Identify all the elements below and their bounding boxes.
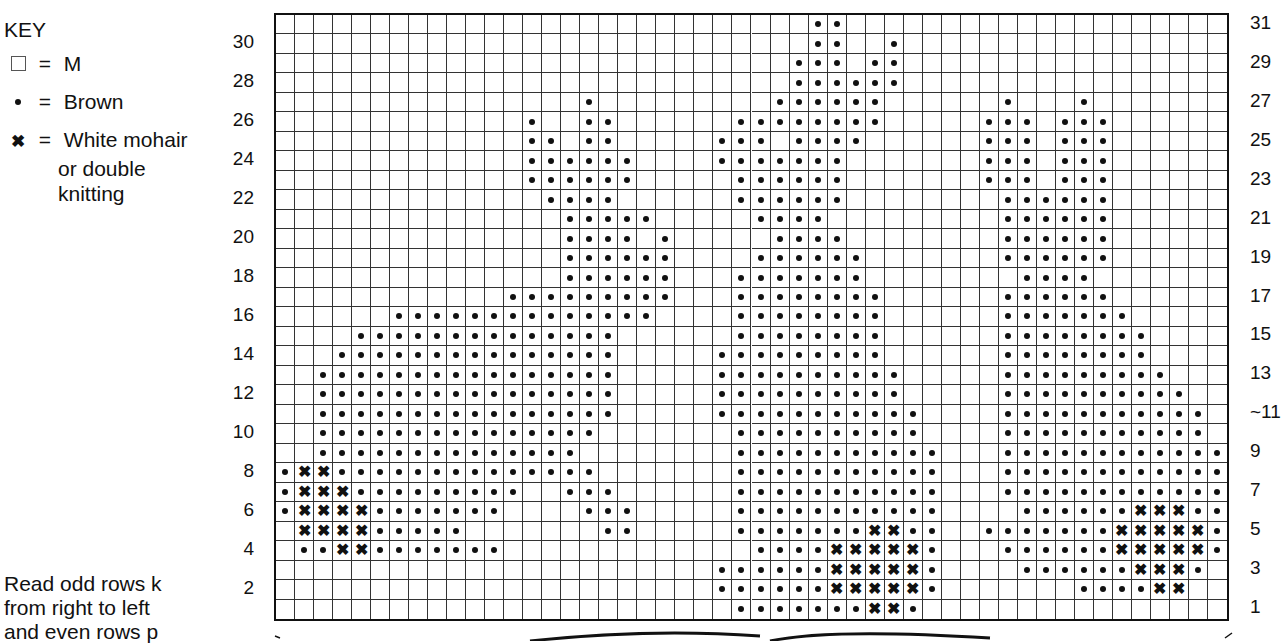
chart-cell-brown <box>732 424 751 443</box>
chart-cell-m <box>694 385 713 404</box>
chart-cell-brown <box>618 288 637 307</box>
chart-cell-m <box>523 561 542 580</box>
chart-cell-m <box>713 112 732 131</box>
chart-cell-m <box>333 327 352 346</box>
chart-cell-m <box>333 307 352 326</box>
chart-cell-white: ✖ <box>352 502 371 521</box>
chart-cell-brown <box>1018 483 1037 502</box>
chart-cell-m <box>885 151 904 170</box>
chart-cell-brown <box>1018 463 1037 482</box>
chart-cell-m <box>314 93 333 112</box>
chart-cell-m <box>1056 34 1075 53</box>
chart-cell-brown <box>732 132 751 151</box>
chart-cell-m <box>561 93 580 112</box>
chart-cell-m <box>942 366 961 385</box>
chart-cell-brown <box>809 600 828 619</box>
chart-cell-m <box>1094 73 1113 92</box>
chart-cell-m <box>713 483 732 502</box>
chart-cell-brown <box>1018 366 1037 385</box>
chart-cell-brown <box>999 210 1018 229</box>
chart-cell-m <box>618 93 637 112</box>
chart-cell-brown <box>828 483 847 502</box>
chart-cell-m <box>333 561 352 580</box>
chart-cell-m <box>276 151 295 170</box>
chart-cell-m <box>523 502 542 521</box>
chart-cell-m <box>713 463 732 482</box>
chart-cell-brown <box>1018 171 1037 190</box>
chart-cell-m <box>656 405 675 424</box>
chart-cell-m <box>961 34 980 53</box>
chart-cell-m <box>1113 268 1132 287</box>
chart-cell-brown <box>828 502 847 521</box>
chart-cell-brown <box>466 405 485 424</box>
chart-cell-brown <box>885 463 904 482</box>
row-label: 17 <box>1250 285 1284 307</box>
chart-cell-m <box>694 73 713 92</box>
chart-cell-brown <box>732 561 751 580</box>
chart-cell-brown <box>809 73 828 92</box>
chart-cell-m <box>276 54 295 73</box>
chart-cell-m <box>866 15 885 34</box>
chart-cell-brown <box>1018 190 1037 209</box>
chart-cell-m <box>656 151 675 170</box>
chart-cell-m <box>542 93 561 112</box>
chart-cell-m <box>980 307 999 326</box>
chart-cell-brown <box>428 346 447 365</box>
chart-cell-white: ✖ <box>828 561 847 580</box>
chart-cell-m <box>523 249 542 268</box>
chart-cell-brown <box>523 366 542 385</box>
chart-cell-brown <box>999 405 1018 424</box>
chart-cell-brown <box>1056 522 1075 541</box>
chart-cell-m <box>276 580 295 599</box>
chart-cell-m <box>904 307 923 326</box>
chart-cell-brown <box>732 151 751 170</box>
chart-cell-m <box>295 171 314 190</box>
chart-cell-brown <box>809 502 828 521</box>
chart-cell-brown <box>790 444 809 463</box>
chart-cell-brown <box>1094 210 1113 229</box>
chart-cell-brown <box>580 190 599 209</box>
chart-cell-m <box>694 132 713 151</box>
chart-cell-brown <box>847 346 866 365</box>
chart-cell-brown <box>847 483 866 502</box>
chart-cell-white: ✖ <box>1151 561 1170 580</box>
chart-cell-brown <box>352 385 371 404</box>
chart-cell-brown <box>580 405 599 424</box>
chart-cell-m <box>428 171 447 190</box>
chart-cell-brown <box>847 502 866 521</box>
chart-cell-m <box>1189 93 1208 112</box>
chart-cell-m <box>904 210 923 229</box>
chart-cell-brown <box>1075 444 1094 463</box>
chart-cell-m <box>980 346 999 365</box>
chart-cell-m <box>1151 229 1170 248</box>
chart-cell-m <box>637 424 656 443</box>
chart-cell-m <box>675 15 694 34</box>
chart-cell-brown <box>790 366 809 385</box>
chart-cell-brown <box>599 249 618 268</box>
chart-cell-brown <box>352 366 371 385</box>
chart-cell-brown <box>504 385 523 404</box>
chart-cell-m <box>599 54 618 73</box>
chart-cell-brown <box>1094 424 1113 443</box>
chart-cell-brown <box>1208 522 1227 541</box>
row-label: 23 <box>1250 168 1284 190</box>
chart-cell-m <box>1037 54 1056 73</box>
chart-cell-m <box>656 132 675 151</box>
chart-cell-m <box>1170 132 1189 151</box>
chart-cell-m <box>980 93 999 112</box>
chart-cell-m <box>904 268 923 287</box>
chart-cell-brown <box>466 541 485 560</box>
chart-cell-brown <box>1056 171 1075 190</box>
chart-cell-m <box>694 151 713 170</box>
chart-cell-m <box>694 307 713 326</box>
chart-cell-brown <box>1075 190 1094 209</box>
chart-cell-m <box>1208 288 1227 307</box>
chart-cell-m <box>1208 112 1227 131</box>
chart-cell-m <box>428 229 447 248</box>
chart-cell-m <box>1151 307 1170 326</box>
chart-cell-brown <box>866 307 885 326</box>
chart-cell-brown <box>732 444 751 463</box>
chart-cell-m <box>713 93 732 112</box>
chart-cell-m <box>1151 15 1170 34</box>
chart-cell-brown <box>999 424 1018 443</box>
